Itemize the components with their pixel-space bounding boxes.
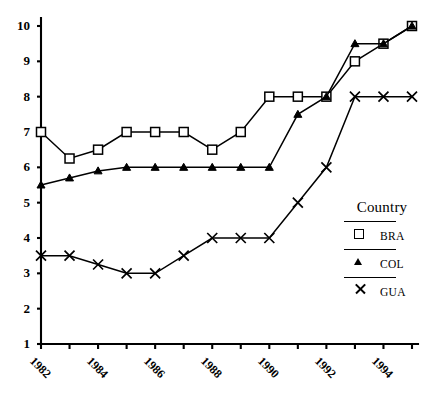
- square-marker: [37, 128, 46, 137]
- series-line-col: [41, 26, 412, 185]
- y-tick-label: 9: [8, 53, 30, 69]
- square-marker: [350, 57, 359, 66]
- y-tick-label: 7: [8, 124, 30, 140]
- y-tick-label: 2: [8, 301, 30, 317]
- legend-line-bra: [344, 221, 396, 222]
- square-marker: [122, 128, 131, 137]
- square-marker: [94, 145, 103, 154]
- square-marker: [236, 128, 245, 137]
- x-marker-icon: [354, 283, 370, 297]
- legend-line-gua: [344, 277, 396, 278]
- series-col: [37, 22, 416, 188]
- square-marker: [265, 92, 274, 101]
- square-marker: [293, 92, 302, 101]
- y-tick-label: 3: [8, 265, 30, 281]
- chart-canvas: [0, 0, 431, 396]
- legend-title: Country: [336, 199, 428, 216]
- y-tick-label: 10: [8, 18, 30, 34]
- triangle-marker-icon: [354, 255, 370, 269]
- legend-line-col: [344, 249, 396, 250]
- square-marker-icon: [354, 227, 370, 241]
- square-marker: [65, 154, 74, 163]
- y-tick-label: 1: [8, 336, 30, 352]
- legend-label-bra: BRA: [380, 230, 405, 242]
- x-marker: [93, 260, 103, 270]
- plot-area: 12345678910 1982198419861988199019921994: [0, 0, 431, 396]
- chart-root: 12345678910 1982198419861988199019921994…: [0, 0, 431, 396]
- y-tick-label: 4: [8, 230, 30, 246]
- legend-label-gua: GUA: [380, 286, 406, 298]
- square-marker: [208, 145, 217, 154]
- triangle-marker: [294, 110, 302, 117]
- legend-label-col: COL: [380, 258, 404, 270]
- x-marker: [321, 162, 331, 172]
- x-marker: [179, 251, 189, 261]
- x-marker: [293, 198, 303, 208]
- y-tick-label: 8: [8, 89, 30, 105]
- y-tick-label: 5: [8, 195, 30, 211]
- legend-item-gua[interactable]: GUA: [336, 275, 428, 303]
- y-tick-label: 6: [8, 159, 30, 175]
- legend: Country BRA COL GUA: [336, 199, 428, 303]
- square-marker: [179, 128, 188, 137]
- square-marker: [151, 128, 160, 137]
- legend-item-bra[interactable]: BRA: [336, 219, 428, 247]
- legend-item-col[interactable]: COL: [336, 247, 428, 275]
